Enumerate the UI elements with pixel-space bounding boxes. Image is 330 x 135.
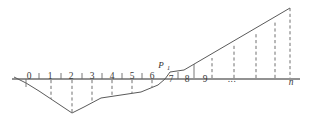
axis-end-label-n: n <box>289 77 294 87</box>
axis-tick-label-6: 6 <box>150 71 155 81</box>
figure-container: 0 1 2 3 4 5 6 7 8 9 ... n P 1 <box>0 0 330 135</box>
axis-ellipsis-label: ... <box>228 74 236 84</box>
axis-tick-label-0: 0 <box>27 71 32 81</box>
axis-tick-label-9: 9 <box>203 74 208 84</box>
axis-tick-label-3: 3 <box>90 71 95 81</box>
axis-tick-label-2: 2 <box>69 71 74 81</box>
axis-tick-label-1: 1 <box>48 71 53 81</box>
point-label-p: P <box>157 60 164 70</box>
axis-tick-label-8: 8 <box>185 74 190 84</box>
piecewise-line-figure: 0 1 2 3 4 5 6 7 8 9 ... n P 1 <box>0 0 330 135</box>
axis-tick-label-7: 7 <box>169 74 174 84</box>
point-label-subscript: 1 <box>167 64 170 71</box>
axis-tick-label-4: 4 <box>110 71 115 81</box>
axis-tick-label-5: 5 <box>130 71 135 81</box>
piecewise-curve <box>14 8 290 113</box>
